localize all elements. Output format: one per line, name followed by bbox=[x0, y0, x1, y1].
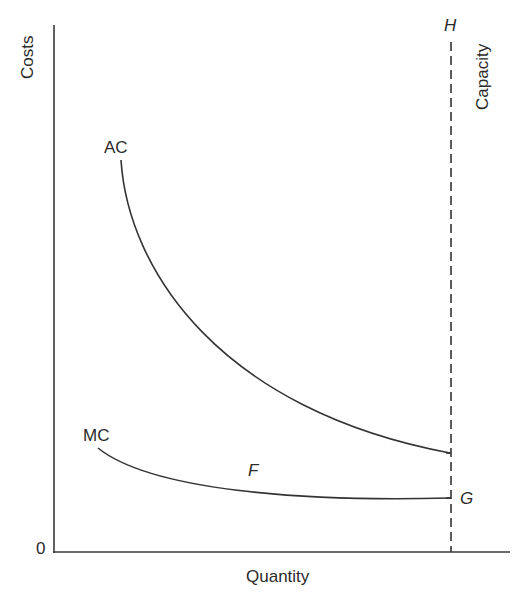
point-g-label: G bbox=[460, 490, 473, 507]
origin-label: 0 bbox=[36, 540, 45, 557]
cost-curves-diagram: Costs Capacity H AC MC F G 0 Quantity bbox=[0, 0, 532, 611]
x-axis-label: Quantity bbox=[246, 568, 309, 585]
ac-curve-label: AC bbox=[104, 139, 128, 156]
mc-curve-label: MC bbox=[83, 427, 109, 444]
point-f-label: F bbox=[248, 462, 258, 479]
ac-curve bbox=[121, 160, 450, 453]
mc-curve bbox=[98, 448, 450, 499]
capacity-label: Capacity bbox=[474, 44, 491, 110]
diagram-canvas bbox=[0, 0, 532, 611]
y-axis-label: Costs bbox=[19, 36, 36, 79]
point-h-label: H bbox=[444, 17, 456, 34]
